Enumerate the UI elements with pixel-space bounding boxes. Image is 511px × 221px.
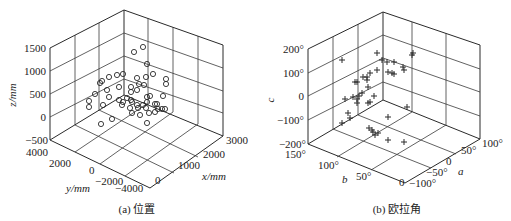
circle-marker bbox=[160, 93, 165, 98]
circle-marker bbox=[146, 110, 151, 115]
caption-a: (a) 位置 bbox=[119, 202, 156, 216]
circle-marker bbox=[100, 102, 105, 107]
circle-marker bbox=[98, 121, 103, 126]
x-tick: 2000 bbox=[203, 148, 226, 160]
z-tick: 500 bbox=[30, 88, 47, 100]
z-axis-label: z/mm bbox=[6, 83, 18, 107]
circle-marker bbox=[86, 98, 91, 103]
z-tick: 1000 bbox=[24, 65, 47, 77]
plus-marker bbox=[354, 100, 360, 106]
z-tick: 0 bbox=[41, 111, 47, 123]
a-tick: −50° bbox=[426, 166, 448, 178]
circle-marker bbox=[152, 109, 157, 114]
circle-marker bbox=[109, 116, 114, 121]
circle-marker bbox=[134, 87, 139, 92]
c-tick: 100° bbox=[283, 67, 304, 79]
circle-marker bbox=[106, 94, 111, 99]
circle-marker bbox=[131, 49, 136, 54]
circle-marker bbox=[144, 120, 149, 125]
circle-marker bbox=[106, 74, 111, 79]
plus-marker bbox=[374, 50, 380, 56]
circle-marker bbox=[143, 105, 148, 110]
y-tick: −4000 bbox=[115, 182, 144, 194]
circle-marker bbox=[104, 87, 109, 92]
plus-marker bbox=[385, 69, 391, 75]
plus-marker bbox=[371, 93, 377, 99]
caption-b: (b) 欧拉角 bbox=[373, 202, 422, 216]
x-tick: 3000 bbox=[226, 134, 249, 146]
b-axis-label: b bbox=[342, 173, 348, 185]
circle-marker bbox=[140, 44, 145, 49]
circle-marker bbox=[163, 81, 168, 86]
c-axis-label: c bbox=[264, 97, 276, 102]
circle-marker bbox=[127, 105, 132, 110]
circle-marker bbox=[137, 112, 142, 117]
plus-marker bbox=[401, 67, 407, 73]
x-tick: 0 bbox=[155, 174, 161, 186]
euler-angle-3d-scatter: 200° 100° 0 −100° −200° c 150° 100° 50° … bbox=[264, 12, 503, 216]
a-tick: 50° bbox=[461, 144, 476, 156]
a-tick: 100° bbox=[482, 137, 503, 149]
circle-marker bbox=[134, 102, 139, 107]
circle-marker bbox=[134, 75, 139, 80]
b-tick: 100° bbox=[318, 159, 339, 171]
circle-marker bbox=[128, 89, 133, 94]
c-tick: 0 bbox=[299, 90, 305, 102]
b-tick: 50° bbox=[356, 170, 371, 182]
circle-marker bbox=[163, 76, 168, 81]
plus-marker bbox=[385, 137, 391, 143]
plus-marker bbox=[342, 96, 348, 102]
circle-marker bbox=[129, 110, 134, 115]
plus-marker bbox=[401, 139, 407, 145]
circle-marker bbox=[116, 84, 121, 89]
plus-marker bbox=[364, 77, 370, 83]
c-tick: 200° bbox=[283, 43, 304, 55]
figure-canvas: 1500 1000 500 0 −500 z/mm 4000 2000 0 −2… bbox=[0, 0, 511, 221]
circle-marker bbox=[150, 71, 155, 76]
b-tick: 0 bbox=[399, 176, 405, 188]
circle-marker bbox=[128, 84, 133, 89]
circle-marker bbox=[119, 102, 124, 107]
plus-marker bbox=[365, 84, 371, 90]
plus-marker bbox=[339, 57, 345, 63]
plus-marker bbox=[391, 59, 397, 65]
plot-b-markers bbox=[339, 50, 416, 145]
z-tick: −500 bbox=[25, 134, 48, 146]
y-axis-label: y/mm bbox=[65, 182, 90, 194]
z-tick: 1500 bbox=[24, 42, 47, 54]
plus-marker bbox=[359, 90, 365, 96]
plus-marker bbox=[367, 70, 373, 76]
x-axis-label: x/mm bbox=[201, 170, 226, 182]
c-tick: −100° bbox=[277, 114, 304, 126]
b-tick: 150° bbox=[285, 148, 306, 160]
plus-marker bbox=[400, 64, 406, 70]
circle-marker bbox=[144, 94, 149, 99]
plus-marker bbox=[385, 114, 391, 120]
circle-marker bbox=[120, 71, 125, 76]
y-tick: 2000 bbox=[49, 157, 72, 169]
plus-marker bbox=[360, 74, 366, 80]
position-3d-scatter: 1500 1000 500 0 −500 z/mm 4000 2000 0 −2… bbox=[6, 10, 249, 216]
a-tick: −100° bbox=[409, 177, 436, 189]
a-tick: 0 bbox=[446, 155, 452, 167]
circle-marker bbox=[114, 72, 119, 77]
plus-marker bbox=[374, 67, 380, 73]
x-tick: 1000 bbox=[178, 159, 201, 171]
circle-marker bbox=[86, 104, 91, 109]
a-axis-label: a bbox=[458, 165, 464, 177]
plot-b-grid bbox=[308, 12, 480, 183]
y-tick: 4000 bbox=[26, 146, 49, 158]
